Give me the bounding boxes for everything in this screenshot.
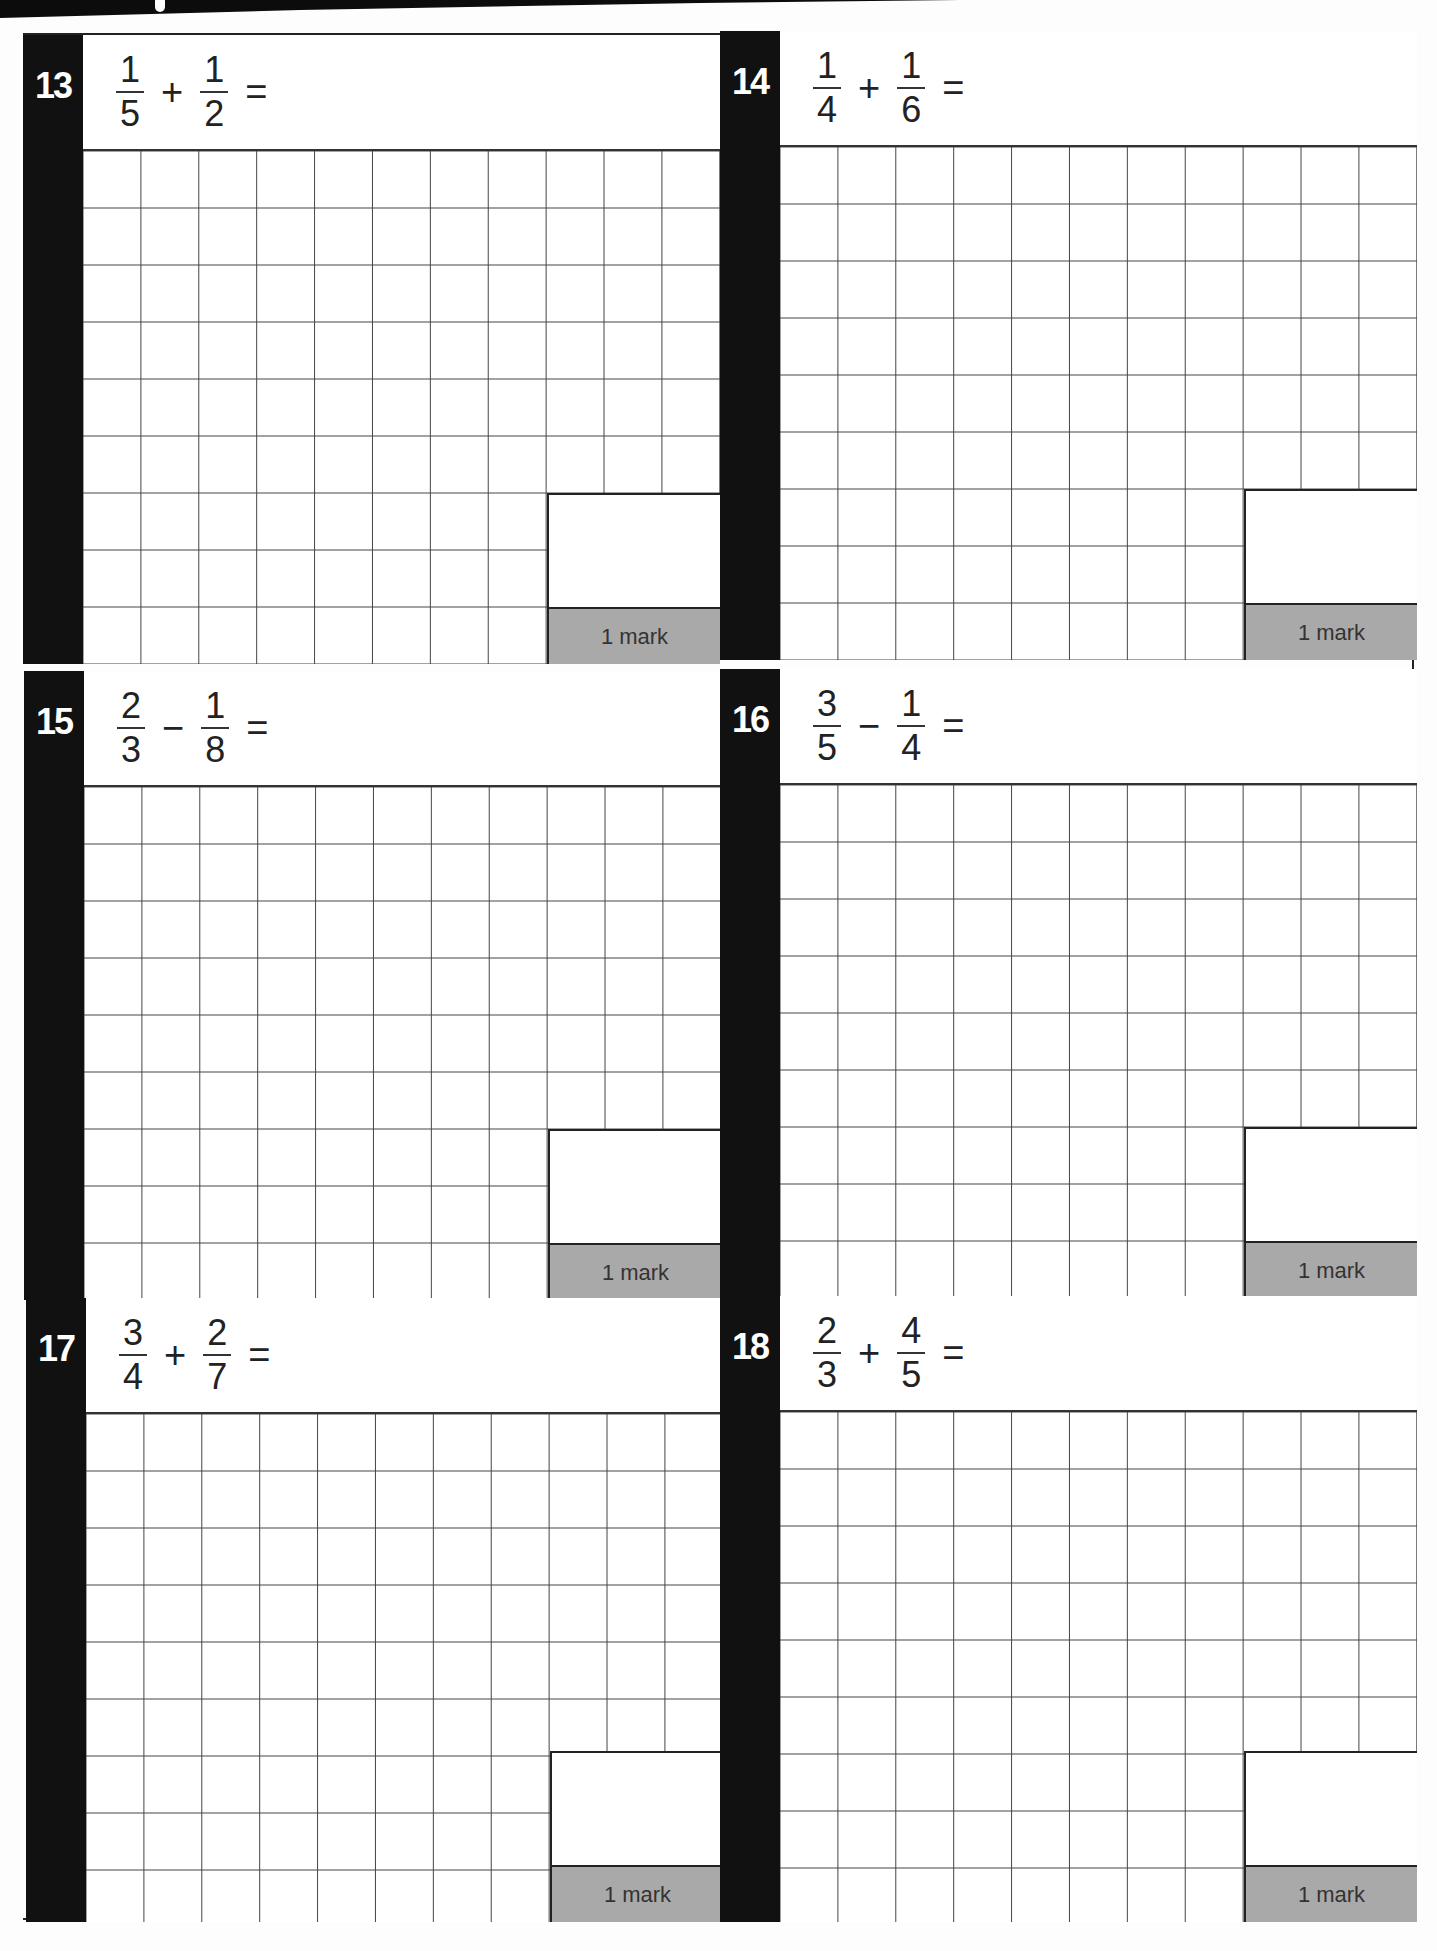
question-prompt: 2 3 + 4 5 = — [780, 1296, 1417, 1412]
numerator: 1 — [204, 51, 224, 89]
mark-label: 1 mark — [1246, 1865, 1417, 1922]
question-prompt: 1 4 + 1 6 = — [780, 31, 1417, 147]
mark-label: 1 mark — [1246, 603, 1417, 660]
fraction-expression: 1 4 + 1 6 = — [810, 43, 964, 133]
page-header-banner — [0, 0, 1437, 20]
question-number-bar: 17 — [26, 1298, 86, 1922]
question-14: 14 1 4 + 1 6 = 1 mark — [720, 31, 1417, 660]
operator: + — [161, 73, 183, 111]
operator: + — [858, 69, 880, 107]
mark-label: 1 mark — [552, 1865, 723, 1922]
numerator: 1 — [817, 47, 837, 85]
working-grid[interactable]: 1 mark — [780, 147, 1417, 660]
equals-sign: = — [246, 709, 268, 747]
numerator: 3 — [817, 685, 837, 723]
fraction-a: 3 5 — [810, 685, 844, 767]
question-13: 13 1 5 + 1 2 = 1 mark — [23, 35, 720, 664]
denominator: 4 — [901, 729, 921, 767]
working-grid[interactable]: 1 mark — [86, 1414, 723, 1922]
question-number-bar: 13 — [23, 35, 83, 664]
fraction-a: 2 3 — [114, 687, 148, 769]
numerator: 2 — [207, 1314, 227, 1352]
equals-sign: = — [942, 1334, 964, 1372]
answer-box[interactable]: 1 mark — [1244, 489, 1417, 660]
question-number-bar: 15 — [24, 671, 84, 1300]
fraction-expression: 3 4 + 2 7 = — [116, 1310, 270, 1400]
banner-letter-fragment — [155, 0, 165, 12]
answer-box[interactable]: 1 mark — [1244, 1751, 1417, 1922]
operator: + — [164, 1336, 186, 1374]
denominator: 4 — [817, 91, 837, 129]
question-18: 18 2 3 + 4 5 = 1 mark — [720, 1296, 1417, 1922]
fraction-b: 2 7 — [200, 1314, 234, 1396]
worksheet: 13 1 5 + 1 2 = 1 mark — [23, 33, 1414, 1920]
working-grid[interactable]: 1 mark — [83, 151, 720, 664]
fraction-b: 1 6 — [894, 47, 928, 129]
working-grid[interactable]: 1 mark — [780, 1412, 1417, 1922]
question-prompt: 3 4 + 2 7 = — [86, 1298, 723, 1414]
operator: + — [858, 1334, 880, 1372]
numerator: 1 — [901, 47, 921, 85]
fraction-b: 1 8 — [198, 687, 232, 769]
working-grid[interactable]: 1 mark — [780, 785, 1417, 1298]
question-number: 13 — [23, 65, 83, 107]
denominator: 8 — [205, 731, 225, 769]
denominator: 4 — [123, 1358, 143, 1396]
mark-label: 1 mark — [1246, 1241, 1417, 1298]
numerator: 1 — [205, 687, 225, 725]
denominator: 2 — [204, 95, 224, 133]
question-number: 17 — [26, 1328, 86, 1370]
question-number-bar: 14 — [720, 31, 780, 660]
denominator: 6 — [901, 91, 921, 129]
question-number-bar: 16 — [720, 669, 780, 1298]
answer-box[interactable]: 1 mark — [1244, 1127, 1417, 1298]
numerator: 2 — [817, 1312, 837, 1350]
fraction-a: 2 3 — [810, 1312, 844, 1394]
question-number: 16 — [720, 699, 780, 741]
question-number: 18 — [720, 1326, 780, 1368]
fraction-expression: 1 5 + 1 2 = — [113, 47, 267, 137]
question-number: 15 — [24, 701, 84, 743]
numerator: 1 — [901, 685, 921, 723]
question-prompt: 3 5 − 1 4 = — [780, 669, 1417, 785]
mark-label: 1 mark — [550, 1243, 721, 1300]
fraction-b: 1 2 — [197, 51, 231, 133]
mark-label: 1 mark — [549, 607, 720, 664]
fraction-expression: 2 3 − 1 8 = — [114, 683, 268, 773]
denominator: 5 — [901, 1356, 921, 1394]
fraction-expression: 3 5 − 1 4 = — [810, 681, 964, 771]
question-prompt: 2 3 − 1 8 = — [84, 671, 721, 787]
numerator: 3 — [123, 1314, 143, 1352]
fraction-a: 3 4 — [116, 1314, 150, 1396]
numerator: 1 — [120, 51, 140, 89]
question-number: 14 — [720, 61, 780, 103]
denominator: 3 — [121, 731, 141, 769]
fraction-a: 1 4 — [810, 47, 844, 129]
equals-sign: = — [245, 73, 267, 111]
fraction-b: 4 5 — [894, 1312, 928, 1394]
question-16: 16 3 5 − 1 4 = 1 mark — [720, 669, 1417, 1298]
operator: − — [162, 709, 184, 747]
answer-box[interactable]: 1 mark — [550, 1751, 723, 1922]
fraction-a: 1 5 — [113, 51, 147, 133]
numerator: 4 — [901, 1312, 921, 1350]
question-prompt: 1 5 + 1 2 = — [83, 35, 720, 151]
answer-box[interactable]: 1 mark — [548, 1129, 721, 1300]
question-number-bar: 18 — [720, 1296, 780, 1922]
equals-sign: = — [942, 707, 964, 745]
operator: − — [858, 707, 880, 745]
denominator: 5 — [817, 729, 837, 767]
denominator: 3 — [817, 1356, 837, 1394]
fraction-b: 1 4 — [894, 685, 928, 767]
numerator: 2 — [121, 687, 141, 725]
equals-sign: = — [248, 1336, 270, 1374]
denominator: 7 — [207, 1358, 227, 1396]
answer-box[interactable]: 1 mark — [547, 493, 720, 664]
equals-sign: = — [942, 69, 964, 107]
fraction-expression: 2 3 + 4 5 = — [810, 1308, 964, 1398]
working-grid[interactable]: 1 mark — [84, 787, 721, 1300]
question-17: 17 3 4 + 2 7 = 1 mark — [26, 1298, 723, 1922]
question-15: 15 2 3 − 1 8 = 1 mark — [24, 671, 721, 1300]
denominator: 5 — [120, 95, 140, 133]
